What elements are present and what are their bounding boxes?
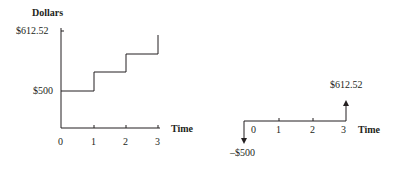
timeline-axis-title: Time (358, 125, 380, 135)
y-label-bottom: $500 (33, 86, 53, 96)
y-label-top: $612.52 (16, 26, 49, 36)
x-axis-title: Time (171, 124, 193, 134)
x-tick-label: 0 (58, 137, 63, 147)
timeline-tick-label: 2 (310, 125, 315, 135)
timeline-tick-label: 0 (251, 125, 256, 135)
arrow-down-icon (241, 138, 247, 144)
step-line (61, 35, 158, 91)
x-tick-label: 2 (123, 137, 128, 147)
x-tick-label: 1 (91, 137, 96, 147)
x-tick-label: 3 (155, 137, 160, 147)
timeline-tick-label: 3 (341, 125, 346, 135)
outflow-label: –$500 (230, 148, 255, 158)
inflow-label: $612.52 (330, 80, 363, 90)
timeline-tick-label: 1 (276, 125, 281, 135)
arrow-up-icon (343, 100, 349, 106)
y-axis-title: Dollars (32, 8, 63, 18)
